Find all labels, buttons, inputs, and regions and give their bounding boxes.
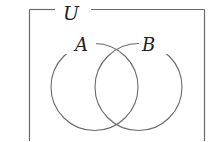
set-b-label: B: [141, 34, 155, 55]
universe-label: U: [63, 2, 80, 24]
venn-diagram: U A B: [0, 0, 212, 141]
set-a-label: A: [73, 34, 88, 55]
universe-box: [30, 10, 205, 142]
